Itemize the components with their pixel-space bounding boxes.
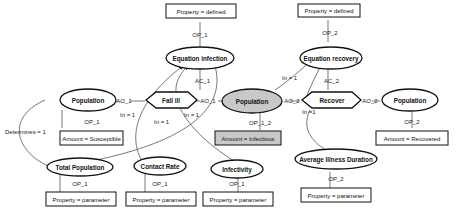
svg-text:Property = parameter: Property = parameter (53, 197, 110, 203)
in-label: In = 1 (154, 119, 170, 125)
contact-rate-node: Contact Rate (134, 157, 186, 175)
population-left-node: Population (60, 89, 116, 111)
op-label: OP_2 (322, 30, 338, 36)
svg-text:Property = defined: Property = defined (304, 8, 353, 14)
op-label: OP_1_2 (249, 120, 272, 126)
amount-recovered-box: Amount = Recovered (376, 131, 448, 145)
ac-label: AC_1 (195, 78, 211, 84)
svg-text:Property = parameter: Property = parameter (133, 197, 190, 203)
fall-ill-node: Fall ill (146, 92, 197, 108)
svg-text:Population: Population (236, 98, 269, 106)
population-right-node: Population (382, 89, 438, 111)
in-label: In = 1 (282, 75, 298, 81)
svg-text:Population: Population (394, 97, 427, 105)
determines-label: Determines = 1 (5, 129, 47, 135)
svg-text:Contact Rate: Contact Rate (141, 163, 180, 170)
ao-label: AO_2 (284, 98, 300, 104)
op-label: OP_2 (404, 119, 420, 125)
population-mid-node: Population (222, 89, 282, 113)
ao-label: AO_1 (200, 98, 216, 104)
op-label: OP_1 (229, 181, 245, 187)
svg-text:Equation recovery: Equation recovery (304, 55, 359, 63)
svg-text:Fall ill: Fall ill (162, 97, 180, 104)
op-label: OP_1 (192, 32, 208, 38)
amount-susceptible-box: Amount = Susceptible (60, 131, 123, 145)
svg-text:Amount = Recovered: Amount = Recovered (384, 136, 441, 142)
diagram-canvas: Property = defined OP_1 Equation infecti… (0, 0, 459, 221)
op-label: OP_1 (84, 119, 100, 125)
ac-label: AC_2 (324, 78, 340, 84)
svg-text:Recover: Recover (320, 97, 345, 104)
equation-recovery-node: Equation recovery (300, 47, 362, 69)
op-label: OP_1 (72, 181, 88, 187)
op-label: OP_1 (152, 181, 168, 187)
svg-text:Equation infection: Equation infection (173, 55, 228, 63)
svg-text:Amount = Infectious: Amount = Infectious (221, 136, 274, 142)
svg-text:Property = parameter: Property = parameter (308, 193, 365, 199)
in-label: In =1 (302, 109, 316, 115)
in-label: In = 1 (184, 112, 200, 118)
diagram-svg: Property = defined OP_1 Equation infecti… (0, 0, 459, 221)
svg-text:Total Population: Total Population (56, 164, 105, 172)
svg-text:Amount = Susceptible: Amount = Susceptible (62, 136, 121, 142)
op-label: OP_2 (328, 176, 344, 182)
ao-label: AO_1 (116, 98, 132, 104)
ao-label: AO_2 (362, 98, 378, 104)
equation-infection-node: Equation infection (166, 47, 234, 69)
prop-param-total-box: Property = parameter (46, 192, 116, 206)
svg-text:Property = defined: Property = defined (176, 9, 225, 15)
in-label: In = 1 (120, 112, 136, 118)
recover-node: Recover (302, 92, 361, 108)
avg-illness-duration-node: Average Illness Duration (295, 149, 377, 169)
prop-param-infect-box: Property = parameter (203, 192, 273, 206)
prop-param-dur-box: Property = parameter (301, 188, 371, 202)
svg-text:Population: Population (72, 97, 105, 105)
prop-param-contact-box: Property = parameter (126, 192, 196, 206)
prop-defined-1: Property = defined (166, 4, 236, 18)
svg-text:Property = parameter: Property = parameter (210, 197, 267, 203)
svg-text:Infectivity: Infectivity (222, 166, 252, 174)
prop-defined-2: Property = defined (298, 4, 360, 17)
total-population-node: Total Population (47, 158, 113, 176)
svg-text:Average Illness Duration: Average Illness Duration (299, 156, 373, 164)
infectivity-node: Infectivity (211, 160, 263, 178)
amount-infectious-box: Amount = Infectious (215, 131, 281, 145)
